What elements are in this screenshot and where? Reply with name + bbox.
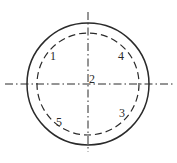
point-label-4: 4: [118, 50, 124, 62]
point-label-2: 2: [89, 73, 95, 85]
point-label-3: 3: [119, 107, 125, 119]
point-label-5: 5: [56, 116, 62, 128]
point-label-1: 1: [50, 50, 56, 62]
